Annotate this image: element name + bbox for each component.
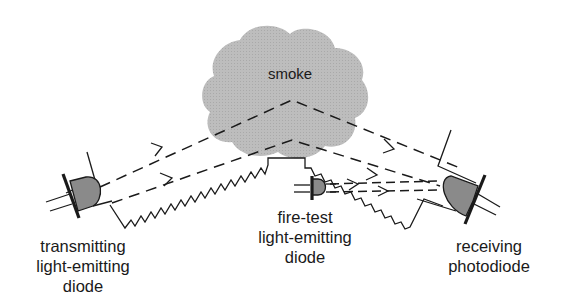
receiving-photodiode [417,130,500,224]
arrow-icon [383,139,394,153]
smoke-label: smoke [268,65,312,82]
arrow-icon [347,179,358,190]
arrow-icon [151,143,162,156]
smoke-detector-diagram: smoke [0,0,567,305]
transmitter-label: transmitting light-emitting diode [36,237,130,295]
fire-test-led [294,176,336,200]
svg-text:receiving: receiving [456,237,522,255]
svg-text:diode: diode [285,248,325,266]
arrow-icon [366,168,377,180]
svg-text:transmitting: transmitting [40,237,125,255]
smoke-cloud: smoke [202,26,368,159]
fire-test-label: fire-test light-emitting diode [258,208,352,266]
svg-text:light-emitting: light-emitting [258,228,352,246]
svg-text:diode: diode [63,277,103,295]
arrow-icon [160,173,172,186]
svg-text:light-emitting: light-emitting [36,257,130,275]
transmitting-led [46,152,112,218]
receiver-label: receiving photodiode [448,237,530,275]
svg-text:fire-test: fire-test [277,208,332,226]
svg-text:photodiode: photodiode [448,257,530,275]
